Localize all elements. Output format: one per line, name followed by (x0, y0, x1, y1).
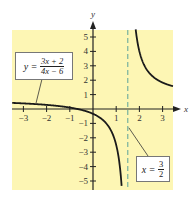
function-numerator: 3x + 2 (40, 57, 64, 67)
function-label-lhs: y (24, 61, 28, 72)
asymptote-fraction: 3 2 (158, 160, 164, 179)
x-tick-label: 3 (160, 113, 165, 123)
y-tick-label: −2 (78, 133, 88, 143)
asymptote-label-box: x = 3 2 (136, 156, 170, 182)
x-tick-label: 2 (137, 113, 142, 123)
asymptote-denominator: 2 (159, 170, 163, 179)
y-tick-label: −1 (78, 118, 88, 128)
x-tick-label: −3 (19, 113, 29, 123)
function-label-box: y = 3x + 2 4x − 6 (15, 52, 73, 80)
y-tick-label: 4 (84, 46, 89, 56)
asymptote-label-lhs: x (142, 164, 146, 175)
y-tick-label: 2 (84, 75, 89, 85)
function-fraction: 3x + 2 4x − 6 (40, 57, 64, 76)
function-denominator: 4x − 6 (41, 67, 63, 76)
asymptote-numerator: 3 (158, 160, 164, 170)
function-label-eq: = (31, 61, 37, 72)
x-tick-label: −1 (65, 113, 75, 123)
y-tick-label: −3 (78, 147, 88, 157)
y-axis-label: y (90, 9, 95, 19)
y-tick-label: 5 (84, 32, 89, 42)
y-axis-arrow (90, 21, 96, 29)
y-tick-label: −4 (78, 162, 88, 172)
x-axis-label: x (183, 104, 188, 114)
asymptote-label-eq: = (149, 164, 155, 175)
x-tick-label: 1 (114, 113, 119, 123)
y-tick-label: −5 (78, 176, 88, 186)
y-tick-label: 3 (84, 61, 89, 71)
x-tick-label: −2 (42, 113, 52, 123)
y-tick-label: 1 (84, 90, 89, 100)
x-axis-arrow (173, 106, 181, 112)
